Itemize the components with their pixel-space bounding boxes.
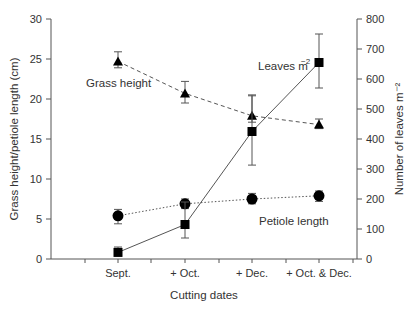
square-marker [315,58,324,67]
left-tick-label: 30 [30,13,42,25]
left-tick-label: 15 [30,133,42,145]
right-tick-label: 400 [366,133,384,145]
left-y-axis-title: Grass height/petiole length (cm) [8,57,20,220]
petiole-length-label: Petiole length [259,215,329,227]
x-tick-label: + Dec. [236,267,268,279]
square-marker [248,127,257,136]
grass-height-label: Grass height [86,77,152,89]
triangle-marker [113,56,123,65]
square-marker [181,220,190,229]
circle-marker [247,194,258,205]
right-tick-label: 600 [366,73,384,85]
right-tick-label: 700 [366,43,384,55]
right-tick-label: 500 [366,103,384,115]
leaves-label-superscript: −2 [301,57,311,66]
axes: 0510152025300100200300400500600700800Sep… [8,13,405,301]
series-line [118,196,319,216]
right-tick-label: 300 [366,163,384,175]
dual-axis-line-chart: 0510152025300100200300400500600700800Sep… [0,0,416,309]
right-tick-label: 100 [366,223,384,235]
circle-marker [314,190,325,201]
right-tick-label: 800 [366,13,384,25]
right-tick-label: 0 [366,253,372,265]
left-tick-label: 0 [36,253,42,265]
circle-marker [113,210,124,221]
left-tick-label: 10 [30,173,42,185]
x-axis-title: Cutting dates [170,289,238,301]
right-tick-label: 200 [366,193,384,205]
triangle-marker [180,88,190,97]
x-tick-label: + Oct. [170,267,200,279]
left-tick-label: 25 [30,53,42,65]
square-marker [114,248,123,257]
triangle-marker [314,120,324,129]
left-tick-label: 5 [36,213,42,225]
labels: Grass heightLeaves m−2Petiole length [86,57,329,227]
left-tick-label: 20 [30,93,42,105]
right-y-axis-title: Number of leaves m⁻² [393,82,405,195]
x-tick-label: + Oct. & Dec. [286,267,352,279]
x-tick-label: Sept. [105,267,131,279]
